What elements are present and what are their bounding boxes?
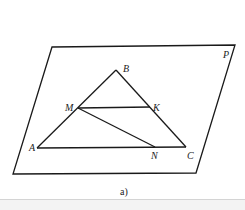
point-label-k: K	[152, 102, 161, 113]
segment-mk	[78, 107, 150, 108]
segment-bc	[116, 70, 186, 147]
segment-mn	[78, 108, 155, 147]
page-divider	[0, 199, 245, 210]
point-label-b: B	[123, 63, 129, 74]
figure-caption: a)	[120, 186, 128, 198]
plane-label: P	[222, 49, 229, 60]
point-label-c: C	[187, 150, 194, 161]
geometry-diagram: P B M K A N C a)	[0, 0, 245, 210]
point-label-m: M	[64, 102, 74, 113]
point-label-n: N	[150, 150, 159, 161]
segment-ab	[37, 70, 116, 148]
segment-ac	[37, 147, 186, 148]
point-label-a: A	[28, 142, 36, 153]
